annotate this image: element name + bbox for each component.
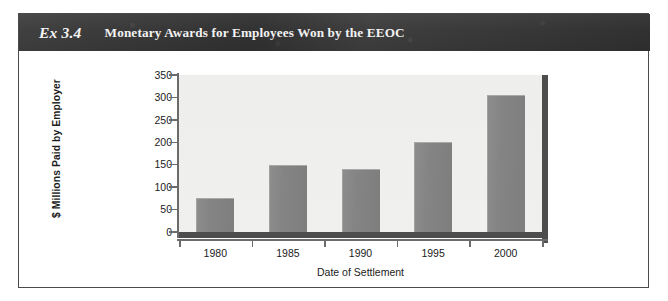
bar-chart: $ Millions Paid by Employer 050100150200…	[19, 51, 650, 288]
x-tick-mark	[324, 239, 326, 247]
plot-right-edge-shadow	[542, 75, 548, 243]
bar	[487, 95, 525, 232]
x-tick-label: 1985	[252, 248, 324, 259]
exhibit-header-band: Ex 3.4 Monetary Awards for Employees Won…	[19, 14, 650, 51]
y-tick-mark	[169, 186, 177, 188]
y-axis-line	[177, 73, 179, 238]
x-axis-line	[177, 239, 548, 241]
x-tick-label: 1995	[397, 248, 469, 259]
plot-floor-shadow	[179, 232, 548, 238]
x-tick-mark	[179, 239, 181, 247]
exhibit-card: Ex 3.4 Monetary Awards for Employees Won…	[18, 13, 649, 288]
x-tick-mark	[542, 239, 544, 247]
y-tick-mark	[169, 231, 177, 233]
exhibit-number-label: Ex 3.4	[39, 24, 82, 42]
x-tick-label: 1990	[325, 248, 397, 259]
y-tick-mark	[169, 74, 177, 76]
y-tick-mark	[169, 119, 177, 121]
x-axis-title: Date of Settlement	[179, 266, 542, 278]
y-tick-mark	[169, 164, 177, 166]
bar	[342, 169, 380, 232]
y-tick-mark	[169, 142, 177, 144]
x-tick-mark	[469, 239, 471, 247]
bar	[196, 198, 234, 232]
x-tick-mark	[397, 239, 399, 247]
bar	[414, 142, 452, 232]
exhibit-title: Monetary Awards for Employees Won by the…	[105, 25, 405, 41]
y-tick-mark	[169, 209, 177, 211]
y-tick-mark	[169, 97, 177, 99]
x-tick-mark	[252, 239, 254, 247]
y-axis-title: $ Millions Paid by Employer	[51, 64, 62, 234]
x-tick-label: 1980	[179, 248, 251, 259]
x-tick-label: 2000	[470, 248, 542, 259]
bar	[269, 165, 307, 232]
